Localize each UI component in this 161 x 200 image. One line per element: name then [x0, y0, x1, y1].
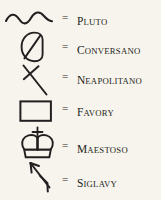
- label-rest: AVORY: [83, 108, 114, 118]
- legend-row-pluto: = PLUTO: [0, 6, 161, 32]
- wavy-line-symbol: [4, 8, 56, 28]
- equals-sign: =: [62, 41, 68, 52]
- crossed-diagonal-symbol: [21, 63, 55, 97]
- legend-row-favory: = FAVORY: [0, 96, 161, 126]
- brand-legend: = PLUTO = CONVERSANO = NEAPOLITANO: [0, 0, 161, 200]
- label-initial: M: [77, 143, 87, 155]
- equals-sign: =: [62, 71, 68, 82]
- legend-row-conversano: = CONVERSANO: [0, 30, 161, 64]
- label-rest: EAPOLITANO: [85, 76, 142, 86]
- legend-row-neapolitano: = NEAPOLITANO: [0, 62, 161, 98]
- legend-label-conversano: CONVERSANO: [77, 40, 141, 58]
- legend-label-favory: FAVORY: [77, 102, 114, 120]
- legend-label-maestoso: MAESTOSO: [77, 139, 128, 157]
- equals-sign: =: [62, 12, 68, 23]
- legend-label-siglavy: SIGLAVY: [77, 173, 117, 191]
- slashed-oval-symbol: [19, 31, 53, 63]
- legend-row-siglavy: = SIGLAVY: [0, 160, 161, 200]
- equals-sign: =: [62, 174, 68, 185]
- label-rest: ONVERSANO: [85, 46, 141, 56]
- equals-sign: =: [62, 103, 68, 114]
- rectangle-symbol: [19, 98, 59, 124]
- label-rest: AESTOSO: [87, 145, 128, 155]
- equals-sign: =: [62, 140, 68, 151]
- barbed-arrow-symbol: [26, 160, 62, 198]
- label-rest: LUTO: [83, 17, 107, 27]
- label-initial: C: [77, 44, 85, 56]
- legend-label-neapolitano: NEAPOLITANO: [77, 70, 142, 88]
- label-rest: IGLAVY: [83, 179, 117, 189]
- legend-label-pluto: PLUTO: [77, 11, 107, 29]
